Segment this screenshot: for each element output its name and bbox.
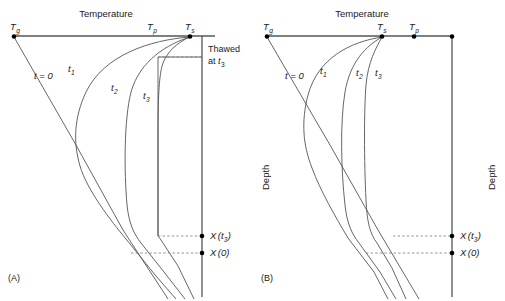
panel-b-t3-subscript: 3 bbox=[378, 73, 382, 80]
panel-b-node-tg bbox=[265, 34, 270, 39]
panel-a: Temperature Tg Tp Ts t = 0 t1 t2 t3 Thaw… bbox=[8, 8, 240, 299]
panel-b-tg-subscript: g bbox=[269, 27, 273, 35]
panel-b-x-0-symbol: X bbox=[459, 247, 467, 258]
panel-a-ts-subscript: s bbox=[191, 27, 195, 34]
panel-b-node-right bbox=[450, 34, 455, 39]
panel-b-t2-subscript: 2 bbox=[358, 73, 363, 80]
panel-a-label-tg: Tg bbox=[10, 21, 20, 35]
panel-a-x-0-arg: (0) bbox=[218, 247, 230, 258]
panel-b-marker-x-t3 bbox=[450, 234, 455, 239]
panel-a-label-ts: Ts bbox=[185, 21, 195, 34]
panel-b-x-t3-symbol: X bbox=[459, 230, 467, 241]
panel-a-label-t0: t = 0 bbox=[34, 70, 53, 81]
panel-a-x-t3-symbol: X bbox=[209, 230, 217, 241]
figure-container: Temperature Tg Tp Ts t = 0 t1 t2 t3 Thaw… bbox=[0, 0, 505, 301]
panel-b-node-ts bbox=[380, 34, 385, 39]
panel-b-marker-x-0 bbox=[450, 251, 455, 256]
panel-a-t2-subscript: 2 bbox=[113, 88, 118, 95]
panel-b-label-tg: Tg bbox=[263, 21, 273, 35]
panel-a-thawed-note-line2: at t3 bbox=[208, 56, 225, 68]
panel-b-curve-t2 bbox=[342, 37, 396, 299]
panel-b-x-t3-close: ) bbox=[477, 230, 481, 241]
panel-b-label-x-0: X(0) bbox=[459, 247, 479, 258]
svg-text:Tg: Tg bbox=[10, 21, 20, 35]
panel-a-node-tg bbox=[12, 34, 17, 39]
panel-b-tp-subscript: p bbox=[414, 27, 419, 35]
panel-a-thawed-note-line1: Thawed bbox=[208, 44, 240, 54]
panel-b-axis-title: Temperature bbox=[335, 8, 388, 19]
panel-a-x-t3-close: ) bbox=[227, 230, 231, 241]
panel-a-tg-subscript: g bbox=[16, 27, 20, 35]
panel-a-label-t3: t3 bbox=[143, 90, 150, 103]
panel-a-node-ts bbox=[188, 34, 193, 39]
panel-b-label-t2: t2 bbox=[356, 67, 363, 80]
panel-b-label-t3: t3 bbox=[375, 67, 382, 80]
panel-b-x-0-arg: (0) bbox=[468, 247, 480, 258]
panel-a-label-x-0: X(0) bbox=[209, 247, 229, 258]
panel-a-curve-t3 bbox=[158, 37, 194, 299]
panel-a-label-t1: t1 bbox=[68, 63, 75, 76]
panel-b-node-tp bbox=[412, 34, 417, 39]
panel-a-thawed-note-prefix: at bbox=[208, 56, 218, 66]
panel-b-depth-label-right: Depth bbox=[486, 165, 497, 190]
panel-b-label-ts: Ts bbox=[377, 21, 387, 34]
panel-b-ts-subscript: s bbox=[383, 27, 387, 34]
panel-b: Temperature Tg Ts Tp t = 0 t1 t2 t3 X(t3… bbox=[260, 8, 497, 299]
panel-b-label-x-t3: X(t3) bbox=[459, 230, 481, 243]
panel-a-label-tp: Tp bbox=[147, 21, 157, 35]
panel-a-t1-subscript: 1 bbox=[71, 69, 75, 76]
panel-b-label-t0: t = 0 bbox=[285, 70, 304, 81]
panel-b-label-tp: Tp bbox=[409, 21, 419, 35]
panel-b-label-t1: t1 bbox=[320, 65, 327, 78]
panel-a-axis-title: Temperature bbox=[79, 8, 132, 19]
panel-a-marker-x-0 bbox=[200, 251, 205, 256]
panel-a-label-x-t3: X(t3) bbox=[209, 230, 231, 243]
panel-a-x-0-symbol: X bbox=[209, 247, 217, 258]
panel-a-thawed-note-sub: 3 bbox=[221, 61, 225, 68]
panel-b-t1-subscript: 1 bbox=[323, 71, 327, 78]
panel-a-label-t2: t2 bbox=[111, 82, 118, 95]
panel-a-curve-t2 bbox=[125, 37, 190, 299]
panel-b-depth-label-left: Depth bbox=[260, 165, 271, 190]
panel-a-tp-subscript: p bbox=[152, 27, 157, 35]
panel-a-t3-subscript: 3 bbox=[146, 96, 150, 103]
svg-text:Tp: Tp bbox=[147, 21, 157, 35]
panel-b-panel-label: (B) bbox=[261, 273, 273, 283]
panel-a-marker-x-t3 bbox=[200, 234, 205, 239]
panel-a-panel-label: (A) bbox=[8, 273, 20, 283]
panel-a-curve-t1 bbox=[76, 37, 190, 299]
svg-text:Ts: Ts bbox=[185, 21, 195, 34]
